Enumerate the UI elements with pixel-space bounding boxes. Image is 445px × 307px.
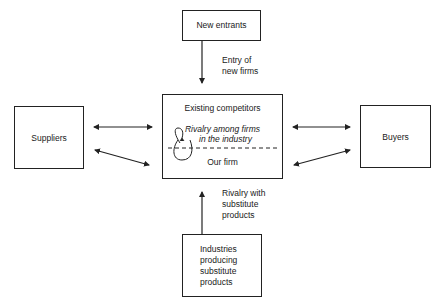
substitutes-line1: Industries [200,244,237,255]
suppliers-box: Suppliers [14,106,84,169]
entry-label: Entry of new firms [222,55,258,77]
buyers-box: Buyers [360,105,431,168]
new-entrants-label: New entrants [183,20,260,31]
substitutes-line4: products [200,277,237,288]
entry-label-line1: Entry of [222,55,258,66]
substitution-label-line3: products [222,210,265,221]
buyer-arrow-diagonal [294,150,350,165]
substitutes-box: Industries producing substitute products [182,234,262,297]
supplier-arrow-diagonal [95,150,149,165]
substitution-label-line1: Rivalry with [222,188,265,199]
substitutes-label: Industries producing substitute products [200,244,237,288]
entry-label-line2: new firms [222,66,258,77]
suppliers-label: Suppliers [15,133,83,144]
buyers-label: Buyers [361,132,430,143]
existing-competitors-box: Existing competitors Rivalry among firms… [162,94,283,179]
substitution-label-line2: substitute [222,199,265,210]
substitutes-line3: substitute [200,266,237,277]
substitution-label: Rivalry with substitute products [222,188,265,221]
substitutes-line2: producing [200,255,237,266]
rivalry-loop-icon [162,94,283,179]
new-entrants-box: New entrants [182,10,261,41]
